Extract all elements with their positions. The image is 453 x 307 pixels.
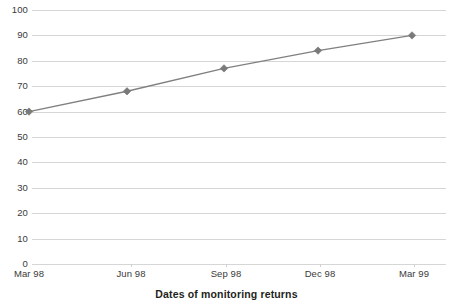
x-axis-tick-dec-98: Dec 98	[285, 268, 355, 279]
x-axis-tick-mar-98: Mar 98	[0, 268, 64, 279]
plot-area: 0 10 20 30 40 50 60 70 80 90 100 Mar 98	[0, 0, 453, 307]
data-point-dec-98	[314, 47, 321, 54]
data-point-mar-98	[25, 108, 32, 115]
data-line-monitoring-returns	[29, 35, 412, 111]
line-chart: 0 10 20 30 40 50 60 70 80 90 100 Mar 98	[0, 0, 453, 307]
x-axis-tick-mar-99: Mar 99	[379, 268, 449, 279]
x-axis-tick-sep-98: Sep 98	[191, 268, 261, 279]
data-point-mar-99	[408, 32, 415, 39]
data-series-layer	[0, 0, 453, 307]
data-point-jun-98	[123, 88, 130, 95]
x-axis-tick-jun-98: Jun 98	[96, 268, 166, 279]
x-axis-title: Dates of monitoring returns	[0, 288, 453, 300]
data-point-sep-98	[220, 65, 227, 72]
